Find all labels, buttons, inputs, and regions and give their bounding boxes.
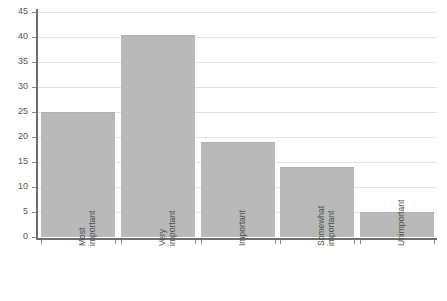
- x-tick-mark: [360, 240, 361, 244]
- x-tick-mark: [434, 240, 435, 244]
- x-tick-mark: [201, 240, 202, 244]
- plot-area: [38, 12, 437, 237]
- x-axis-label: Unimportant: [370, 246, 424, 298]
- y-tick-label: 15: [2, 157, 28, 166]
- x-tick-mark: [115, 240, 116, 244]
- y-tick-label: 10: [2, 182, 28, 191]
- y-tick-label: 45: [2, 7, 28, 16]
- x-axis-label: Veryimportant: [131, 246, 185, 298]
- x-axis-label: Important: [211, 246, 265, 298]
- x-tick-mark: [41, 240, 42, 244]
- x-tick-mark: [121, 240, 122, 244]
- x-axis-label: Mostimportant: [51, 246, 105, 298]
- y-tick-label: 35: [2, 57, 28, 66]
- y-tick-label: 30: [2, 82, 28, 91]
- x-axis-label: Somewhatimportant: [290, 246, 344, 298]
- y-tick-label: 0: [2, 232, 28, 241]
- x-tick-mark: [354, 240, 355, 244]
- x-tick-mark: [280, 240, 281, 244]
- bar-chart-figure: 051015202530354045 MostimportantVeryimpo…: [0, 0, 447, 301]
- x-tick-mark: [275, 240, 276, 244]
- y-tick-label: 5: [2, 207, 28, 216]
- x-tick-mark: [195, 240, 196, 244]
- y-tick-label: 20: [2, 132, 28, 141]
- y-tick-label: 25: [2, 107, 28, 116]
- y-tick-label: 40: [2, 32, 28, 41]
- bar: [121, 35, 195, 238]
